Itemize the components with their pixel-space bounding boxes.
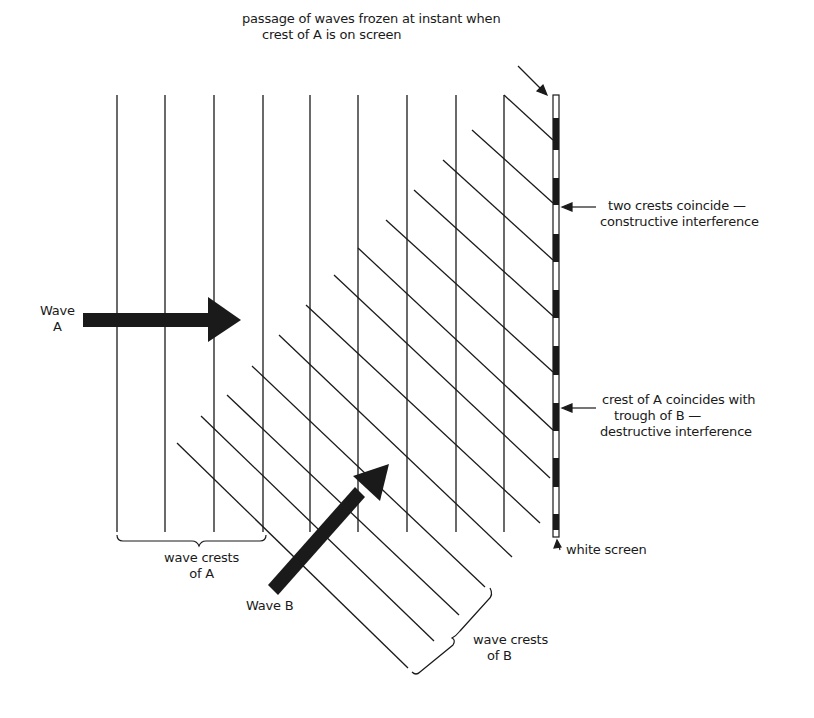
constructive-label: two crests coincide — constructive inter… [600,198,759,230]
wave-b-crests [177,95,553,668]
wave-a-label-line2: A [40,319,75,335]
constructive-pointer-head-icon [562,203,572,211]
wave-b-label: Wave B [246,598,294,614]
wave-b-crests-label-line1: wave crests [473,632,548,648]
white-screen [553,95,559,537]
wave-a-crests-label-line1: wave crests [164,550,239,566]
passage-pointer-arrow-icon [518,66,543,91]
wave-a-arrow-icon [83,297,241,342]
constructive-label-line2: constructive interference [600,214,759,230]
wave-b-crest-line [279,335,512,557]
white-screen-label: white screen [566,542,647,558]
wave-b-crest-line [443,160,553,260]
passage-label-line1: passage of waves frozen at instant when [242,11,500,27]
wave-a-crests-label-line2: of A [164,566,239,582]
constructive-label-line1: two crests coincide — [600,198,759,214]
destructive-label: crest of A coincides with trough of B — … [600,392,755,440]
passage-label: passage of waves frozen at instant when … [242,11,500,43]
wave-b-arrow-icon [268,464,389,595]
white-screen-pointer-head-icon [554,540,561,548]
wave-a-label: Wave A [40,303,75,335]
destructive-label-line1: crest of A coincides with [600,392,755,408]
wave-b-crests-label: wave crests of B [473,632,548,664]
interference-diagram [0,0,814,718]
wave-b-crest-line [306,305,540,523]
wave-a-label-line1: Wave [40,303,75,319]
wave-b-crest-line [414,190,553,316]
wave-b-crest-line [334,275,550,478]
destructive-label-line2: trough of B — [600,408,755,424]
passage-label-line2: crest of A is on screen [242,27,500,43]
destructive-label-line3: destructive interference [600,424,755,440]
destructive-pointer-head-icon [562,404,572,412]
wave-a-crests-brace [117,535,266,546]
wave-b-crest-line [504,95,553,140]
wave-b-crest-line [472,130,553,203]
wave-b-crest-line [386,220,553,372]
wave-a-crests-label: wave crests of A [164,550,239,582]
wave-b-crests-label-line2: of B [473,648,548,664]
